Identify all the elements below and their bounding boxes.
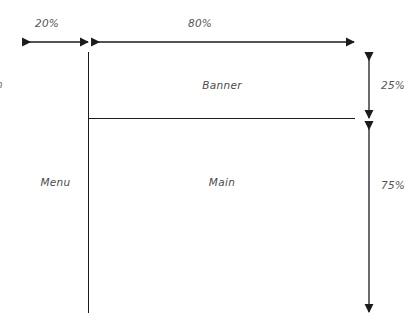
dimension-label-content-width: 80% [188,17,212,29]
region-menu [22,52,89,313]
dimension-label-banner-height: 25% [381,79,405,91]
region-banner [89,52,355,119]
clipped-edge-text: n [0,78,3,90]
dimension-label-menu-width: 20% [35,17,59,29]
dimension-label-main-height: 75% [381,179,405,191]
region-main [89,119,355,313]
wireframe-diagram: n 20% 80% 25% 75% Menu Banner Main [0,0,417,331]
